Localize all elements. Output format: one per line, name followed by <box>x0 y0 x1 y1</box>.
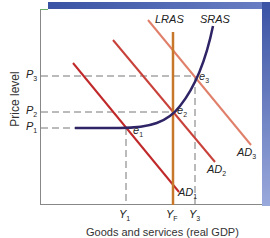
y-axis-label: Price level <box>8 64 22 134</box>
x-axis-label: Goods and services (real GDP) <box>86 226 239 238</box>
y3-label: Y3 <box>189 208 200 222</box>
e2-label: e2 <box>177 104 187 118</box>
ad1-label: AD1 <box>178 186 197 200</box>
as-ad-diagram <box>0 0 270 238</box>
p3-label: P3 <box>26 68 37 82</box>
ad2-curve <box>113 40 215 162</box>
sras-label: SRAS <box>200 13 230 25</box>
lras-label: LRAS <box>155 13 184 25</box>
yf-label: YF <box>166 208 178 222</box>
ad3-label: AD3 <box>237 146 256 160</box>
p2-label: P2 <box>26 104 37 118</box>
y1-label: Y1 <box>119 208 130 222</box>
p1-label: P1 <box>26 120 37 134</box>
e1-label: e1 <box>133 124 143 138</box>
ad2-label: AD2 <box>207 163 226 177</box>
e3-label: e3 <box>199 70 209 84</box>
